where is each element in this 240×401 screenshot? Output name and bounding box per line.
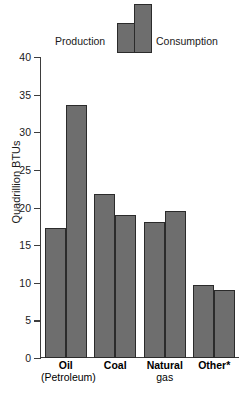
y-axis-tick-label: 10 (0, 278, 31, 288)
y-axis-tick-mark (34, 245, 41, 246)
bar-consumption-2 (165, 211, 186, 358)
legend-label-consumption: Consumption (156, 35, 218, 47)
y-axis-tick-label: 20 (0, 203, 31, 213)
y-axis-title: Quadrillion BTUs (10, 122, 22, 242)
y-axis-tick-label: 40 (0, 52, 31, 62)
y-axis-tick-label: 25 (0, 165, 31, 175)
legend-label-production: Production (55, 35, 105, 47)
y-axis-tick-label-text: 30 (1, 127, 31, 137)
x-axis-label-0: Oil(Petroleum) (41, 359, 91, 383)
legend-swatch-consumption (134, 4, 152, 53)
bar-chart: Production Consumption Quadrillion BTUs … (0, 0, 239, 401)
y-axis-tick-label: 15 (0, 240, 31, 250)
x-axis-label-sub-2: gas (140, 371, 190, 383)
y-axis-tick-label-text: 35 (1, 90, 31, 100)
y-axis-tick-mark (34, 208, 41, 209)
y-axis-tick-label: 35 (0, 90, 31, 100)
x-axis-label-2: Naturalgas (140, 359, 190, 383)
y-axis-tick-label-text: 0 (1, 353, 31, 363)
legend-swatch-production (117, 23, 135, 53)
y-axis-tick-label-text: 20 (1, 203, 31, 213)
bar-series-group (41, 56, 239, 358)
y-axis-tick-mark (34, 132, 41, 133)
bar-consumption-1 (115, 215, 136, 358)
y-axis-tick-mark (34, 320, 41, 321)
y-axis-tick-mark (34, 358, 41, 359)
y-axis-tick-mark (34, 170, 41, 171)
bar-production-0 (45, 228, 66, 358)
bar-production-1 (94, 194, 115, 358)
y-axis-tick-mark (34, 57, 41, 58)
y-axis-tick-mark (34, 283, 41, 284)
y-axis-tick-label-text: 40 (1, 52, 31, 62)
bar-consumption-3 (214, 290, 235, 358)
bar-consumption-0 (66, 105, 87, 358)
y-axis-tick-label: 30 (0, 127, 31, 137)
y-axis-tick-label: 5 (0, 315, 31, 325)
y-axis-tick-mark (34, 95, 41, 96)
y-axis-tick-label-text: 15 (1, 240, 31, 250)
y-axis-tick-label-text: 10 (1, 278, 31, 288)
bar-production-2 (144, 222, 165, 358)
x-axis-category-labels: Oil(Petroleum)CoalNaturalgasOther* (41, 359, 239, 401)
y-axis-tick-label-text: 5 (1, 315, 31, 325)
y-axis-tick-label-text: 25 (1, 165, 31, 175)
chart-legend: Production Consumption (0, 0, 239, 56)
x-axis-label-3: Other* (190, 359, 240, 371)
x-axis-label-1: Coal (91, 359, 141, 371)
y-axis-tick-label: 0 (0, 353, 31, 363)
x-axis-label-sub-0: (Petroleum) (41, 371, 91, 383)
bar-production-3 (193, 285, 214, 358)
plot-area: Quadrillion BTUs 0510152025303540 Oil(Pe… (0, 56, 239, 401)
